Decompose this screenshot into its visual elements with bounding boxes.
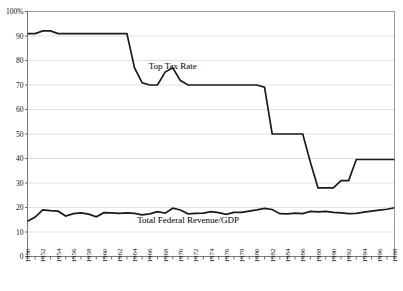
y-tick-label-20: 20	[16, 203, 24, 212]
x-tick-label-1950: 1950	[24, 248, 32, 263]
x-tick-label-1998: 1998	[391, 248, 399, 263]
x-tick-label-1980: 1980	[253, 248, 261, 263]
x-tick-label-1996: 1996	[376, 248, 384, 263]
x-tick-label-1970: 1970	[177, 248, 185, 263]
y-tick-label-30: 30	[16, 179, 24, 188]
x-tick-label-1956: 1956	[70, 248, 78, 263]
x-tick-label-1988: 1988	[315, 248, 323, 263]
y-tick-label-90: 90	[16, 32, 24, 41]
x-tick-label-1952: 1952	[39, 248, 47, 263]
y-tick-label-70: 70	[16, 81, 24, 90]
x-tick-label-1964: 1964	[131, 248, 139, 263]
x-tick-label-1968: 1968	[162, 248, 170, 263]
x-tick-label-1982: 1982	[269, 248, 277, 263]
chart-background	[0, 0, 403, 291]
x-tick-label-1958: 1958	[85, 248, 93, 263]
y-tick-label-60: 60	[16, 105, 24, 114]
x-tick-label-1962: 1962	[116, 248, 124, 263]
x-tick-label-1974: 1974	[208, 248, 216, 263]
series-annotation-1: Top Tax Rate	[149, 61, 197, 71]
x-tick-label-1972: 1972	[192, 248, 200, 263]
x-tick-label-1984: 1984	[284, 248, 292, 263]
y-tick-label-10: 10	[16, 228, 24, 237]
x-tick-label-1990: 1990	[330, 248, 338, 263]
x-tick-label-1976: 1976	[223, 248, 231, 263]
x-tick-label-1978: 1978	[238, 248, 246, 263]
y-tick-label-80: 80	[16, 56, 24, 65]
x-tick-label-1954: 1954	[55, 248, 63, 263]
x-tick-label-1960: 1960	[101, 248, 109, 263]
line-chart: 100%9080706050403020100 1950195219541956…	[0, 0, 403, 291]
x-tick-label-1994: 1994	[361, 248, 369, 263]
series-annotation-2: Total Federal Revenue/GDP	[137, 215, 239, 225]
y-tick-label-40: 40	[16, 154, 24, 163]
y-tick-label-50: 50	[16, 130, 24, 139]
x-tick-label-1986: 1986	[299, 248, 307, 263]
chart-container: 100%9080706050403020100 1950195219541956…	[0, 0, 403, 291]
x-tick-label-1966: 1966	[146, 248, 154, 263]
y-tick-label-100: 100%	[6, 7, 24, 16]
x-tick-label-1992: 1992	[345, 248, 353, 263]
